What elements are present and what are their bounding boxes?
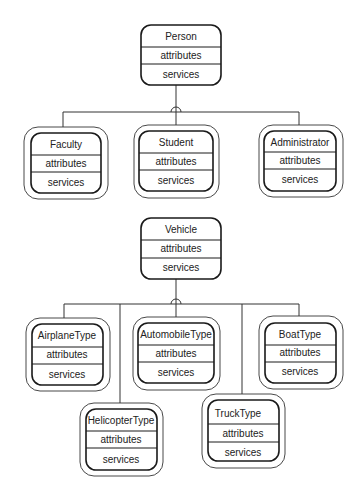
class-diagram-canvas: Person attributes services Faculty attri… — [0, 0, 363, 491]
class-box-airplanetype[interactable]: AirplaneType attributes services — [26, 318, 110, 391]
class-services: services — [282, 366, 319, 377]
class-box-student[interactable]: Student attributes services — [134, 125, 219, 198]
class-name: TruckType — [215, 408, 262, 419]
class-box-helicoptertype[interactable]: HelicopterType attributes services — [80, 403, 163, 476]
person-hierarchy: Person attributes services Faculty attri… — [24, 25, 343, 199]
class-attributes: attributes — [160, 243, 201, 254]
class-name: Faculty — [50, 139, 82, 150]
class-attributes: attributes — [46, 349, 87, 360]
class-attributes: attributes — [279, 347, 320, 358]
class-name: HelicopterType — [88, 415, 155, 426]
class-name: Vehicle — [165, 224, 198, 235]
class-box-administrator[interactable]: Administrator attributes services — [259, 125, 343, 197]
class-attributes: attributes — [100, 434, 141, 445]
class-services: services — [158, 175, 195, 186]
class-services: services — [163, 69, 200, 80]
class-box-person[interactable]: Person attributes services — [141, 25, 221, 85]
class-name: Person — [165, 31, 197, 42]
class-box-faculty[interactable]: Faculty attributes services — [24, 127, 108, 199]
class-services: services — [49, 369, 86, 380]
class-attributes: attributes — [279, 155, 320, 166]
class-name: AirplaneType — [38, 330, 97, 341]
class-services: services — [103, 454, 140, 465]
class-services: services — [48, 177, 85, 188]
class-attributes: attributes — [45, 158, 86, 169]
class-attributes: attributes — [222, 428, 263, 439]
class-attributes: attributes — [155, 348, 196, 359]
vehicle-hierarchy: Vehicle attributes services AirplaneType… — [26, 218, 343, 476]
class-box-boattype[interactable]: BoatType attributes services — [259, 316, 343, 389]
class-services: services — [158, 367, 195, 378]
class-box-vehicle[interactable]: Vehicle attributes services — [141, 218, 221, 279]
class-services: services — [225, 447, 262, 458]
class-attributes: attributes — [155, 156, 196, 167]
class-box-automobiletype[interactable]: AutomobileType attributes services — [133, 317, 220, 390]
class-name: Administrator — [271, 137, 331, 148]
class-services: services — [163, 262, 200, 273]
class-name: Student — [159, 137, 194, 148]
class-name: AutomobileType — [140, 329, 212, 340]
class-box-trucktype[interactable]: TruckType attributes services — [202, 394, 285, 468]
class-services: services — [282, 174, 319, 185]
class-attributes: attributes — [160, 50, 201, 61]
class-name: BoatType — [279, 329, 322, 340]
